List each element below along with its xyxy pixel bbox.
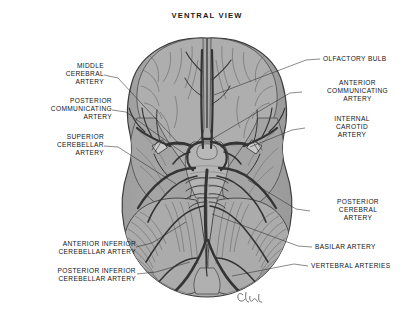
label-posterior-cerebral-artery: POSTERIOR CEREBRAL ARTERY — [314, 198, 402, 223]
artist-signature — [238, 292, 262, 302]
label-posterior-communicating-artery: POSTERIOR COMMUNICATING ARTERY — [2, 97, 112, 122]
label-vertebral-arteries: VERTEBRAL ARTERIES — [311, 262, 413, 270]
label-posterior-inferior-cerebellar-artery: POSTERIOR INFERIOR CEREBELLAR ARTERY — [12, 267, 136, 283]
label-superior-cerebellar-artery: SUPERIOR CEREBELLAR ARTERY — [4, 133, 104, 158]
label-internal-carotid-artery: INTERNAL CAROTID ARTERY — [309, 115, 395, 140]
figure-canvas: VENTRAL VIEW — [0, 0, 414, 331]
label-basilar-artery: BASILAR ARTERY — [315, 243, 409, 251]
label-olfactory-bulb: OLFACTORY BULB — [323, 55, 413, 63]
label-anterior-communicating-artery: ANTERIOR COMMUNICATING ARTERY — [305, 79, 410, 104]
label-anterior-inferior-cerebellar-artery: ANTERIOR INFERIOR CEREBELLAR ARTERY — [14, 240, 136, 256]
label-middle-cerebral-artery: MIDDLE CEREBRAL ARTERY — [4, 62, 104, 87]
